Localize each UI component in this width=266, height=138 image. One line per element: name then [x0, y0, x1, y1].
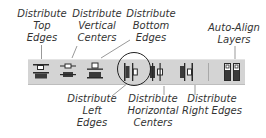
distribute-vertical-centers-button[interactable] [57, 60, 79, 84]
auto-align-layers-icon [221, 60, 243, 84]
label-line: Edges [63, 117, 121, 129]
label-line: Left [63, 105, 121, 117]
distribute-top-edges-icon [30, 60, 52, 84]
label-distribute-top-edges: Distribute Top Edges [14, 8, 70, 44]
distribute-right-edges-icon [176, 60, 198, 84]
toolbar-separator [208, 63, 209, 81]
label-line: Right Edges [181, 105, 243, 117]
label-auto-align-layers: Auto-Align Layers [203, 22, 265, 46]
highlight-circle [117, 52, 151, 86]
label-line: Distribute [67, 8, 127, 20]
label-distribute-horizontal-centers: Distribute Horizontal Centers [123, 93, 183, 129]
label-line: Distribute [63, 93, 121, 105]
distribute-right-edges-button[interactable] [176, 60, 198, 84]
label-line: Vertical [67, 20, 127, 32]
label-line: Distribute [14, 8, 70, 20]
label-distribute-vertical-centers: Distribute Vertical Centers [67, 8, 127, 44]
distribute-bottom-edges-button[interactable] [84, 60, 106, 84]
label-line: Edges [122, 32, 180, 44]
label-line: Edges [14, 32, 70, 44]
label-distribute-left-edges: Distribute Left Edges [63, 93, 121, 129]
callout-line-top-edges [41, 45, 42, 59]
label-distribute-bottom-edges: Distribute Bottom Edges [122, 8, 180, 44]
label-line: Distribute [181, 93, 243, 105]
label-line: Distribute [122, 8, 180, 20]
distribute-bottom-edges-icon [84, 60, 106, 84]
label-distribute-right-edges: Distribute Right Edges [181, 93, 243, 117]
label-line: Distribute [123, 93, 183, 105]
label-line: Auto-Align [203, 22, 265, 34]
label-line: Centers [123, 117, 183, 129]
distribute-vertical-centers-icon [57, 60, 79, 84]
label-line: Bottom [122, 20, 180, 32]
auto-align-layers-button[interactable] [221, 60, 243, 84]
label-line: Layers [203, 34, 265, 46]
distribute-top-edges-button[interactable] [30, 60, 52, 84]
label-line: Horizontal [123, 105, 183, 117]
label-line: Centers [67, 32, 127, 44]
label-line: Top [14, 20, 70, 32]
